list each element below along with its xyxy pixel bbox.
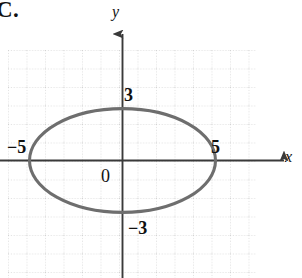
graph-figure: C. y x 3 −3 −5 5 0 (0, 0, 302, 278)
y-axis-label: y (112, 4, 119, 20)
y-tick-label-positive: 3 (124, 86, 133, 104)
y-tick-label-negative: −3 (128, 219, 147, 237)
coordinate-plane-svg (0, 0, 302, 278)
x-axis-label: x (285, 149, 292, 165)
origin-label: 0 (101, 167, 110, 185)
x-tick-label-negative: −5 (7, 138, 26, 156)
choice-letter-label: C. (0, 0, 19, 21)
x-tick-label-positive: 5 (211, 138, 220, 156)
